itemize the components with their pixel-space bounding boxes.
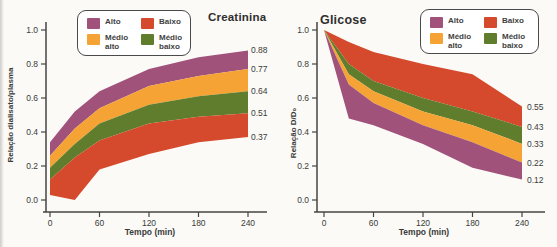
y-tick-label: 0.6	[297, 93, 309, 103]
y-tick-label: 0.0	[26, 195, 38, 205]
band-end-value-label: 0.88	[251, 45, 268, 55]
y-tick-label: 0.8	[26, 59, 38, 69]
legend-label-baixo: Baixo	[159, 17, 193, 26]
x-axis-label-creatinina: Tempo (min)	[125, 227, 175, 237]
legend-glicose: Alto Baixo Médio alto Médio baixo	[420, 9, 539, 54]
chart-title-glicose: Glicose	[320, 13, 367, 27]
y-tick-label: 1.0	[26, 25, 38, 35]
legend-item-baixo: Baixo	[484, 16, 542, 28]
band-end-value-label: 0.22	[527, 158, 544, 168]
x-tick-label: 240	[515, 218, 529, 228]
legend-label-medio-alto: Médio alto	[105, 33, 139, 51]
band-end-value-label: 0.64	[251, 86, 268, 96]
x-tick-label: 60	[95, 218, 105, 228]
legend-label-medio-alto: Médio alto	[448, 32, 482, 50]
y-tick-label: 0.4	[26, 127, 38, 137]
legend-swatch-baixo	[484, 17, 497, 28]
chart-title-creatinina: Creatinina	[208, 11, 266, 23]
legend-label-medio-baixo: Médio baixo	[502, 32, 536, 50]
x-tick-label: 0	[322, 218, 327, 228]
x-tick-label: 180	[191, 218, 205, 228]
scan-edge-shadow	[0, 0, 4, 247]
figure-dialysis-transport-curves: 0.00.20.40.60.81.00601201802400.880.770.…	[0, 0, 557, 247]
x-tick-label: 0	[48, 218, 53, 228]
legend-label-alto: Alto	[105, 17, 139, 26]
legend-item-medio-baixo: Médio baixo	[484, 32, 542, 50]
legend-item-alto: Alto	[430, 16, 482, 28]
legend-item-medio-alto: Médio alto	[87, 33, 139, 51]
band-end-value-label: 0.12	[527, 175, 544, 185]
band-end-value-label: 0.37	[251, 132, 268, 142]
x-tick-label: 240	[241, 218, 255, 228]
legend-item-baixo: Baixo	[141, 17, 199, 29]
y-tick-label: 0.6	[26, 93, 38, 103]
x-tick-label: 60	[369, 218, 379, 228]
y-tick-label: 0.2	[297, 161, 309, 171]
band-end-value-label: 0.55	[527, 102, 544, 112]
legend-label-alto: Alto	[448, 16, 482, 25]
legend-swatch-alto	[430, 17, 443, 28]
legend-item-medio-baixo: Médio baixo	[141, 33, 199, 51]
legend-swatch-medio-baixo	[484, 33, 497, 44]
y-axis-label-glicose: Relação D/D₀	[289, 108, 298, 158]
legend-swatch-baixo	[141, 18, 154, 29]
legend-item-medio-alto: Médio alto	[430, 32, 482, 50]
legend-label-baixo: Baixo	[502, 16, 536, 25]
legend-item-alto: Alto	[87, 17, 139, 29]
y-tick-label: 0.4	[297, 127, 309, 137]
y-tick-label: 0.2	[26, 161, 38, 171]
band-end-value-label: 0.77	[251, 64, 268, 74]
legend-swatch-medio-alto	[430, 33, 443, 44]
legend-label-medio-baixo: Médio baixo	[159, 33, 193, 51]
x-tick-label: 180	[465, 218, 479, 228]
creatinina-bands	[50, 50, 248, 200]
band-end-value-label: 0.51	[251, 108, 268, 118]
legend-swatch-medio-alto	[87, 34, 100, 45]
y-tick-label: 0.8	[297, 59, 309, 69]
x-axis-label-glicose: Tempo (min)	[399, 227, 449, 237]
legend-creatinina: Alto Baixo Médio alto Médio baixo	[77, 10, 191, 56]
band-end-value-label: 0.43	[527, 122, 544, 132]
legend-swatch-alto	[87, 18, 100, 29]
legend-swatch-medio-baixo	[141, 34, 154, 45]
y-tick-label: 0.0	[297, 195, 309, 205]
y-tick-label: 1.0	[297, 25, 309, 35]
band-end-value-label: 0.33	[527, 139, 544, 149]
y-axis-label-creatinina: Relação dialisato/plasma	[6, 67, 15, 162]
